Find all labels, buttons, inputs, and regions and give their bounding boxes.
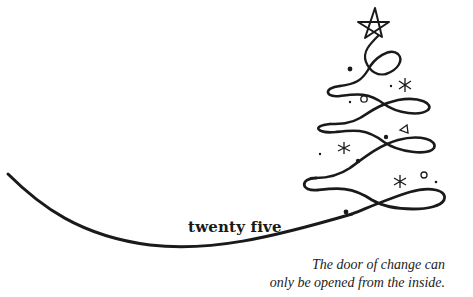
ring-ornament-icon <box>361 96 367 102</box>
card-title: twenty five <box>188 218 282 236</box>
quote-line-2: only be opened from the inside. <box>270 274 445 292</box>
snowflake-icon <box>399 78 411 92</box>
snowflake-icon <box>394 175 406 188</box>
quote-line-1: The door of change can <box>270 256 445 274</box>
snowflake-icon <box>338 142 350 154</box>
quote: The door of change can only be opened fr… <box>270 256 445 292</box>
card: twenty five The door of change can only … <box>0 0 473 297</box>
ring-ornament-icon <box>421 172 427 178</box>
star-icon <box>358 8 389 38</box>
triangle-ornament-icon <box>400 125 408 133</box>
christmas-tree-illustration <box>0 0 473 297</box>
ornaments <box>319 67 438 215</box>
swoosh <box>8 174 352 247</box>
